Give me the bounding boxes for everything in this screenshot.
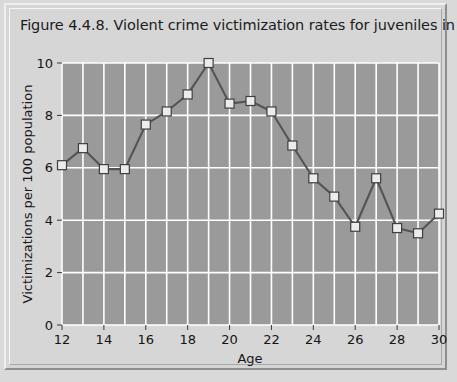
data-point-18 — [183, 90, 192, 99]
data-point-19 — [204, 59, 213, 68]
x-tick-label: 28 — [389, 332, 406, 347]
data-point-20 — [225, 99, 234, 108]
data-point-28 — [393, 224, 402, 233]
data-point-30 — [435, 209, 444, 218]
y-tick-label: 4 — [45, 213, 53, 228]
data-point-14 — [99, 165, 108, 174]
x-tick-label: 26 — [347, 332, 364, 347]
data-point-29 — [414, 229, 423, 238]
y-tick-label: 10 — [36, 56, 53, 71]
x-tick-label: 22 — [263, 332, 280, 347]
data-point-13 — [78, 144, 87, 153]
x-tick-label: 16 — [138, 332, 155, 347]
data-point-27 — [372, 174, 381, 183]
x-tick-labels: 12141618202224262830 — [54, 332, 448, 347]
data-point-24 — [309, 174, 318, 183]
data-point-25 — [330, 192, 339, 201]
data-point-23 — [288, 141, 297, 150]
data-point-26 — [351, 222, 360, 231]
y-tick-label: 6 — [45, 160, 53, 175]
x-tick-label: 12 — [54, 332, 71, 347]
x-tick-label: 20 — [221, 332, 238, 347]
y-axis-title: Victimizations per 100 population — [20, 85, 35, 304]
x-tick-label: 24 — [305, 332, 322, 347]
y-tick-label: 8 — [45, 108, 53, 123]
data-point-22 — [267, 107, 276, 116]
y-tick-label: 0 — [45, 318, 53, 333]
data-point-12 — [58, 161, 67, 170]
x-tick-label: 30 — [431, 332, 448, 347]
data-point-15 — [120, 165, 129, 174]
x-axis-title: Age — [237, 351, 262, 366]
data-point-16 — [141, 120, 150, 129]
line-chart: 12141618202224262830 0246810 Age Victimi… — [10, 9, 453, 376]
data-point-21 — [246, 96, 255, 105]
y-tick-labels: 0246810 — [36, 56, 53, 333]
x-tick-label: 18 — [179, 332, 196, 347]
x-tick-label: 14 — [96, 332, 113, 347]
figure-inner-bevel: Figure 4.4.8. Violent crime victimizatio… — [9, 8, 442, 365]
figure-frame: Figure 4.4.8. Violent crime victimizatio… — [4, 3, 447, 370]
data-point-17 — [162, 107, 171, 116]
y-tick-label: 2 — [45, 265, 53, 280]
